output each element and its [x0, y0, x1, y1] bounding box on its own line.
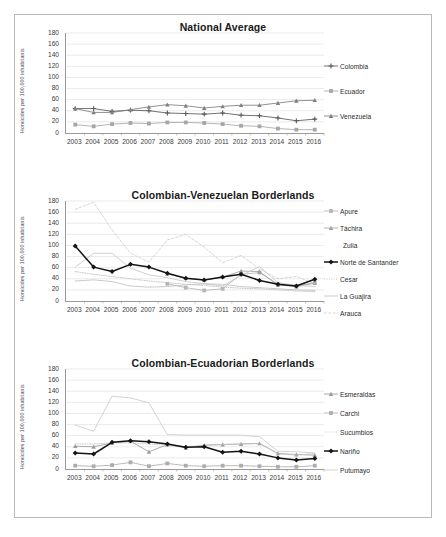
line-dotted-icon: [323, 427, 339, 437]
series-colombia: [73, 106, 317, 123]
data-series-1: [66, 201, 324, 301]
line-marker-diamond-icon: [323, 446, 339, 456]
legend-1: ApureTáchiraZuliaNorte de SantanderCesar…: [323, 183, 427, 351]
y-axis-tick: 20: [35, 286, 59, 293]
y-axis-tick: 60: [35, 264, 59, 271]
line-plain-icon: [323, 465, 339, 475]
y-axis-tick: 80: [35, 253, 59, 260]
y-axis-tick: 180: [35, 30, 59, 37]
y-axis-tick: 160: [35, 377, 59, 384]
y-axis-tick: 40: [35, 275, 59, 282]
chart-panel-national-average: National Average Homicides per 100,000 i…: [15, 15, 431, 183]
plot-area-2: [65, 369, 324, 470]
x-axis-tick-label: 2016: [303, 139, 325, 146]
y-axis-tick: 0: [35, 298, 59, 305]
line-marker-triangle-icon: [323, 389, 339, 399]
series-nariño: [73, 438, 318, 462]
x-axis-labels-1: 2003200420052006200720082009201020112012…: [65, 307, 323, 319]
y-axis-tick: 60: [35, 96, 59, 103]
data-series-2: [66, 369, 324, 469]
y-axis-tick: 140: [35, 220, 59, 227]
legend-item-venezuela[interactable]: Venezuela: [323, 111, 371, 121]
series-ecuador: [73, 121, 316, 132]
legend-label: Apure: [340, 208, 358, 215]
legend-label: Ecuador: [340, 88, 365, 95]
line-plain-icon: [323, 291, 339, 301]
legend-0: ColombiaEcuadorVenezuela: [323, 15, 427, 183]
legend-item-esmeraldas[interactable]: Esmeraldas: [323, 389, 375, 399]
y-axis-tick: 100: [35, 74, 59, 81]
legend-item-zulia[interactable]: Zulia: [323, 240, 358, 250]
plot-wrap-2: Homicides per 100,000 inhabitants 180160…: [15, 351, 431, 519]
y-axis-tick: 120: [35, 399, 59, 406]
y-axis-tick: 40: [35, 107, 59, 114]
legend-label: Zulia: [343, 242, 358, 249]
legend-item-cesar[interactable]: Cesar: [323, 274, 358, 284]
series-carchi: [73, 460, 316, 468]
legend-label: Norte de Santander: [340, 259, 398, 266]
line-marker-plus-icon: [323, 61, 339, 71]
legend-2: EsmeraldasCarchiSucumbiosNariñoPutumayo: [323, 351, 427, 519]
legend-label: Cesar: [340, 276, 358, 283]
line-dotted-icon: [323, 274, 339, 284]
y-axis-tick: 140: [35, 52, 59, 59]
legend-item-norte-de-santander[interactable]: Norte de Santander: [323, 257, 398, 267]
legend-item-arauca[interactable]: Arauca: [323, 308, 361, 318]
legend-label: Putumayo: [340, 467, 370, 474]
y-axis-tick: 60: [35, 432, 59, 439]
y-axis-tick: 160: [35, 41, 59, 48]
line-plain-icon: [323, 240, 339, 250]
legend-item-putumayo[interactable]: Putumayo: [323, 465, 370, 475]
legend-label: Venezuela: [340, 113, 371, 120]
y-axis-label: Homicides per 100,000 inhabitants: [19, 373, 29, 469]
line-marker-square-icon: [323, 206, 339, 216]
y-axis-tick: 140: [35, 388, 59, 395]
legend-item-táchira[interactable]: Táchira: [323, 223, 362, 233]
x-axis-labels-0: 2003200420052006200720082009201020112012…: [65, 139, 323, 151]
legend-label: Nariño: [340, 448, 360, 455]
x-axis-labels-2: 2003200420052006200720082009201020112012…: [65, 475, 323, 487]
x-axis-tick-label: 2016: [303, 475, 325, 482]
series-esmeraldas: [73, 439, 317, 457]
y-axis-tick: 180: [35, 198, 59, 205]
legend-label: Arauca: [340, 310, 361, 317]
y-axis-label: Homicides per 100,000 inhabitants: [19, 37, 29, 133]
y-axis-tick: 120: [35, 63, 59, 70]
legend-item-sucumbios[interactable]: Sucumbios: [323, 427, 373, 437]
chart-panel-colombian-venezuelan-borderlands: Colombian-Venezuelan Borderlands Homicid…: [15, 183, 431, 351]
legend-label: Colombia: [340, 63, 368, 70]
legend-label: Táchira: [340, 225, 362, 232]
chart-panel-colombian-ecuadorian-borderlands: Colombian-Ecuadorian Borderlands Homicid…: [15, 351, 431, 519]
y-axis-tick: 100: [35, 410, 59, 417]
series-norte-de-santander: [73, 244, 318, 289]
x-axis-tick-label: 2016: [303, 307, 325, 314]
line-dashed-icon: [323, 308, 339, 318]
data-series-0: [66, 33, 324, 133]
legend-label: Carchi: [340, 410, 359, 417]
y-axis-label: Homicides per 100,000 inhabitants: [19, 205, 29, 301]
y-axis-tick: 180: [35, 366, 59, 373]
plot-wrap-0: Homicides per 100,000 inhabitants 180160…: [15, 15, 431, 183]
legend-label: Sucumbios: [340, 429, 373, 436]
legend-item-apure[interactable]: Apure: [323, 206, 358, 216]
legend-item-ecuador[interactable]: Ecuador: [323, 86, 365, 96]
line-marker-square-icon: [323, 86, 339, 96]
y-axis-tick: 100: [35, 242, 59, 249]
y-axis-tick: 80: [35, 421, 59, 428]
y-axis-tick: 0: [35, 130, 59, 137]
line-marker-diamond-icon: [323, 257, 339, 267]
plot-area-0: [65, 33, 324, 134]
legend-item-carchi[interactable]: Carchi: [323, 408, 359, 418]
y-axis-tick: 0: [35, 466, 59, 473]
y-axis-tick: 20: [35, 118, 59, 125]
line-marker-triangle-icon: [323, 223, 339, 233]
figure-container: National Average Homicides per 100,000 i…: [14, 14, 432, 518]
y-axis-tick: 120: [35, 231, 59, 238]
legend-item-colombia[interactable]: Colombia: [323, 61, 368, 71]
legend-item-la-guajira[interactable]: La Guajira: [323, 291, 371, 301]
y-axis-tick: 20: [35, 454, 59, 461]
line-marker-triangle-icon: [323, 111, 339, 121]
legend-item-nariño[interactable]: Nariño: [323, 446, 360, 456]
legend-label: La Guajira: [340, 293, 371, 300]
y-axis-tick: 40: [35, 443, 59, 450]
